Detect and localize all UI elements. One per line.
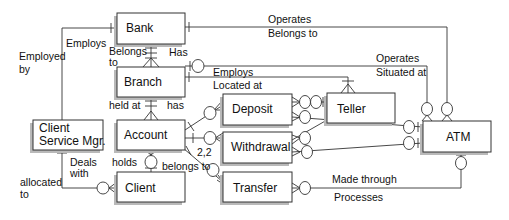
label-operates-mid: Operates xyxy=(376,52,419,64)
entity-deposit-label: Deposit xyxy=(232,102,273,116)
optional-circle xyxy=(300,111,311,124)
optional-circle xyxy=(311,96,322,109)
label-employed-by-2: by xyxy=(19,63,31,75)
optional-circle xyxy=(204,132,216,145)
optional-circle xyxy=(192,60,204,73)
entity-atm-label: ATM xyxy=(446,130,470,144)
label-allocated-1: allocated xyxy=(20,176,62,188)
label-processes: Processes xyxy=(334,191,383,203)
optional-circle xyxy=(456,157,467,170)
entity-teller[interactable]: Teller xyxy=(324,93,395,126)
entity-withdrawal-label: Withdrawal xyxy=(231,140,290,154)
label-belongs-to-account: belongs to xyxy=(162,160,211,172)
er-diagram: Bank Branch Client Service Mgr. Account … xyxy=(0,0,509,220)
entity-csm-label-line1: Client xyxy=(39,121,70,135)
optional-circle xyxy=(442,103,453,116)
optional-circle xyxy=(422,103,433,116)
entity-account-label: Account xyxy=(124,128,168,142)
label-operates-top: Operates xyxy=(268,13,311,25)
optional-circle xyxy=(145,156,157,169)
optional-circle xyxy=(302,146,313,159)
entity-bank[interactable]: Bank xyxy=(114,13,185,47)
label-cardinality: 2,2 xyxy=(197,146,212,158)
optional-circle xyxy=(97,182,109,194)
label-employs-teller: Employs xyxy=(213,66,253,78)
entity-atm[interactable]: ATM xyxy=(420,121,491,155)
entity-transfer-label: Transfer xyxy=(233,181,277,195)
label-employed-by-1: Employed xyxy=(19,50,66,62)
optional-circle xyxy=(204,107,216,120)
label-has: Has xyxy=(169,46,188,58)
label-allocated-2: to xyxy=(20,188,29,200)
label-made-through: Made through xyxy=(332,173,397,185)
entity-csm-label-line2: Service Mgr. xyxy=(39,134,106,148)
optional-circle xyxy=(300,182,311,195)
label-belongs-to-top: Belongs to xyxy=(268,27,318,39)
line-branch-teller xyxy=(185,77,348,93)
optional-circle xyxy=(404,121,415,134)
label-located-at: Located at xyxy=(213,79,262,91)
label-situated-at: Situated at xyxy=(376,66,426,78)
entity-branch-label: Branch xyxy=(124,75,162,89)
optional-circle xyxy=(404,137,415,150)
entity-transfer[interactable]: Transfer xyxy=(220,172,292,205)
label-deals-2: with xyxy=(69,167,89,179)
label-held-at: held at xyxy=(109,99,141,111)
entity-client-label: Client xyxy=(125,181,156,195)
entity-client-service-mgr[interactable]: Client Service Mgr. xyxy=(30,120,106,153)
entity-deposit[interactable]: Deposit xyxy=(220,94,292,128)
entity-client[interactable]: Client xyxy=(114,172,185,205)
label-employs: Employs xyxy=(66,37,106,49)
entity-withdrawal[interactable]: Withdrawal xyxy=(220,132,292,166)
entity-bank-label: Bank xyxy=(126,21,154,35)
entity-branch[interactable]: Branch xyxy=(114,67,185,100)
label-has-lower: has xyxy=(167,99,184,111)
optional-circle xyxy=(300,132,311,145)
label-belongs-to-2: to xyxy=(109,56,118,68)
entity-account[interactable]: Account xyxy=(114,120,185,153)
optional-circle xyxy=(300,96,311,109)
label-holds: holds xyxy=(112,156,137,168)
entity-teller-label: Teller xyxy=(337,102,366,116)
